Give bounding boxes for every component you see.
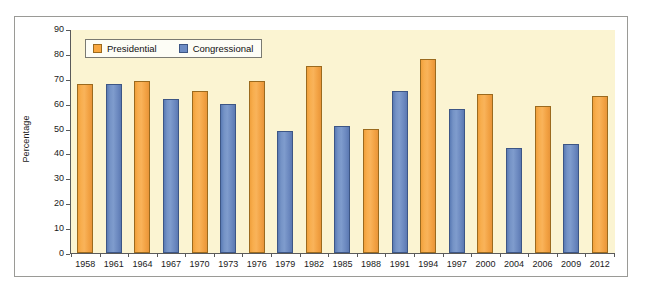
- bar-slot: [157, 30, 186, 253]
- y-tick-label-30: 30: [38, 173, 64, 183]
- bar-1967[interactable]: [163, 99, 179, 253]
- bars-layer: [71, 30, 615, 253]
- y-tick-label-0: 0: [38, 248, 64, 258]
- y-axis-title: Percentage: [21, 79, 31, 199]
- y-tick-mark-90: [66, 30, 70, 31]
- x-tick-mark: [328, 253, 329, 257]
- x-tick-mark: [443, 253, 444, 257]
- bar-slot: [300, 30, 329, 253]
- y-tick-mark-20: [66, 204, 70, 205]
- bar-1958[interactable]: [77, 84, 93, 253]
- bar-1973[interactable]: [220, 104, 236, 253]
- bar-1985[interactable]: [334, 126, 350, 253]
- x-tick-mark: [300, 253, 301, 257]
- y-tick-mark-80: [66, 55, 70, 56]
- legend-entry-congressional[interactable]: Congressional: [179, 43, 254, 54]
- x-tick-mark: [557, 253, 558, 257]
- legend-entry-presidential[interactable]: Presidential: [93, 43, 157, 54]
- bar-slot: [557, 30, 586, 253]
- bar-slot: [357, 30, 386, 253]
- y-tick-label-50: 50: [38, 124, 64, 134]
- bar-1976[interactable]: [249, 81, 265, 253]
- bar-slot: [328, 30, 357, 253]
- x-tick-mark: [585, 253, 586, 257]
- x-tick-mark: [128, 253, 129, 257]
- legend-swatch-icon: [179, 44, 188, 53]
- y-tick-mark-60: [66, 105, 70, 106]
- y-tick-label-80: 80: [38, 49, 64, 59]
- bar-slot: [214, 30, 243, 253]
- bar-2012[interactable]: [592, 96, 608, 253]
- bar-slot: [528, 30, 557, 253]
- y-tick-label-60: 60: [38, 99, 64, 109]
- y-tick-label-40: 40: [38, 148, 64, 158]
- bar-1991[interactable]: [392, 91, 408, 253]
- bar-slot: [271, 30, 300, 253]
- x-tick-mark: [242, 253, 243, 257]
- legend-label: Presidential: [107, 43, 157, 54]
- y-tick-mark-50: [66, 130, 70, 131]
- x-tick-mark: [357, 253, 358, 257]
- bar-slot: [242, 30, 271, 253]
- bar-slot: [414, 30, 443, 253]
- legend-swatch-icon: [93, 44, 102, 53]
- y-tick-label-20: 20: [38, 198, 64, 208]
- bar-1988[interactable]: [363, 129, 379, 253]
- chart-area: Percentage 0102030405060708090 195819611…: [70, 30, 615, 254]
- x-tick-mark: [614, 253, 615, 257]
- bar-slot: [128, 30, 157, 253]
- bar-1982[interactable]: [306, 66, 322, 253]
- bar-slot: [100, 30, 129, 253]
- bar-2000[interactable]: [477, 94, 493, 253]
- bar-slot: [185, 30, 214, 253]
- bar-2006[interactable]: [535, 106, 551, 253]
- x-tick-mark: [471, 253, 472, 257]
- x-tick-mark: [528, 253, 529, 257]
- bar-slot: [71, 30, 100, 253]
- bar-1964[interactable]: [134, 81, 150, 253]
- bar-slot: [585, 30, 614, 253]
- x-tick-mark: [414, 253, 415, 257]
- bar-slot: [471, 30, 500, 253]
- bar-1970[interactable]: [192, 91, 208, 253]
- bar-2009[interactable]: [563, 144, 579, 254]
- chart-legend: PresidentialCongressional: [85, 39, 262, 58]
- x-tick-mark: [385, 253, 386, 257]
- y-tick-mark-0: [66, 254, 70, 255]
- legend-label: Congressional: [193, 43, 254, 54]
- y-tick-label-10: 10: [38, 223, 64, 233]
- y-tick-mark-10: [66, 229, 70, 230]
- y-tick-mark-40: [66, 154, 70, 155]
- x-tick-mark: [71, 253, 72, 257]
- x-tick-mark: [500, 253, 501, 257]
- bar-1994[interactable]: [420, 59, 436, 253]
- bar-slot: [385, 30, 414, 253]
- bar-slot: [500, 30, 529, 253]
- y-tick-label-90: 90: [38, 24, 64, 34]
- bar-1961[interactable]: [106, 84, 122, 253]
- x-tick-label-2012: 2012: [578, 259, 622, 269]
- bar-1979[interactable]: [277, 131, 293, 253]
- figure-frame: Percentage 0102030405060708090 195819611…: [14, 16, 628, 277]
- bar-1997[interactable]: [449, 109, 465, 253]
- bar-slot: [443, 30, 472, 253]
- bar-2004[interactable]: [506, 148, 522, 253]
- y-tick-mark-70: [66, 80, 70, 81]
- x-tick-mark: [271, 253, 272, 257]
- x-tick-mark: [185, 253, 186, 257]
- x-tick-mark: [157, 253, 158, 257]
- x-tick-mark: [100, 253, 101, 257]
- y-tick-mark-30: [66, 179, 70, 180]
- y-tick-label-70: 70: [38, 74, 64, 84]
- x-tick-mark: [214, 253, 215, 257]
